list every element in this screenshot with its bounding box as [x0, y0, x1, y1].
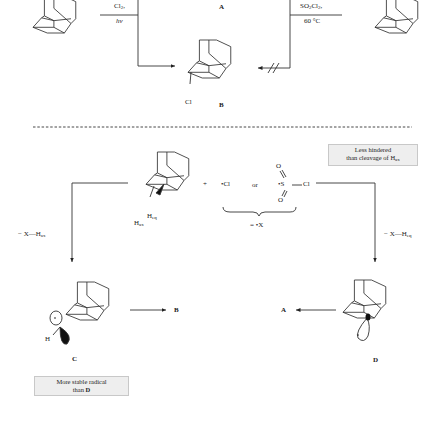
sulfonyl-o-bottom: O [278, 197, 283, 204]
subscript: ax [395, 157, 400, 162]
adamantane-right [375, 0, 418, 33]
comma: , [123, 2, 125, 10]
note-text: than [73, 386, 86, 393]
subscript: ax [41, 233, 46, 238]
reagent-temp-label: 60 °C [304, 18, 320, 25]
reagent-text: Cl [114, 2, 121, 10]
note-line: than cleavage of Hax [332, 154, 414, 164]
adamantane-left [33, 0, 76, 33]
note-line: Less hindered [332, 146, 414, 154]
product-b-label: B [219, 102, 224, 109]
radical-c-structure [50, 282, 109, 344]
product-a-label: A [219, 4, 224, 11]
note-text: than cleavage of H [346, 154, 395, 161]
reagent-so2cl2-label: SO2Cl2, [300, 3, 322, 10]
right-branch-arrow [316, 183, 375, 262]
loss-text: − X—H [384, 230, 407, 238]
chlorination-arrow-path [100, 0, 175, 66]
chlorine-radical: •Cl [221, 181, 230, 188]
d-product-a-label: A [281, 307, 286, 314]
equals-x-label: = •X [250, 222, 263, 229]
note-bold: D [86, 386, 91, 393]
subscript: ax [139, 222, 144, 227]
sulfonyl-s: •S [278, 181, 284, 188]
reaction-scheme [0, 0, 446, 429]
subscript: eq [152, 215, 157, 220]
c-product-b-label: B [174, 307, 179, 314]
product-b-structure [188, 40, 231, 84]
note-line: than D [38, 386, 125, 394]
left-branch-arrow [72, 183, 128, 262]
radical-c-label: C [72, 356, 77, 363]
note-less-hindered: Less hindered than cleavage of Hax [328, 144, 418, 166]
product-b-cl-label: Cl [185, 99, 192, 106]
h-ax-label: Hax [134, 220, 144, 227]
loss-text: − X—H [18, 230, 41, 238]
adamantane-mechanism [146, 152, 189, 197]
note-line: More stable radical [38, 378, 125, 386]
sulfonyl-o-top: O [276, 163, 281, 170]
sulfuryl-arrow-path [258, 0, 342, 73]
radical-d-structure [343, 280, 386, 341]
plus-sign: + [203, 181, 207, 188]
or-label: or [252, 182, 258, 189]
h-eq-label: Heq [147, 213, 157, 220]
subscript: eq [407, 233, 412, 238]
sulfonyl-cl: Cl [303, 181, 310, 188]
reagent-text: SO [300, 2, 309, 10]
comma: , [321, 2, 323, 10]
reagent-cl2-label: Cl2, [114, 3, 125, 10]
radical-d-label: D [373, 357, 378, 364]
loss-x-h-ax: − X—Hax [18, 231, 46, 238]
note-more-stable: More stable radical than D [34, 376, 129, 396]
brace [223, 207, 296, 216]
loss-x-h-eq: − X—Heq [384, 231, 412, 238]
radical-c-h-label: H [45, 336, 50, 343]
reagent-hv-label: hν [116, 18, 123, 25]
